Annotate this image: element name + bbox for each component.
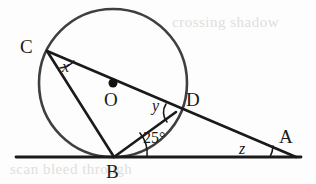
segment-c-to-a — [47, 51, 296, 157]
segment-c-to-b — [47, 51, 114, 157]
geometry-figure: crossing shadow scan bleed through C O D… — [0, 0, 316, 184]
figure-canvas — [0, 0, 316, 184]
center-point-dot — [109, 79, 118, 88]
